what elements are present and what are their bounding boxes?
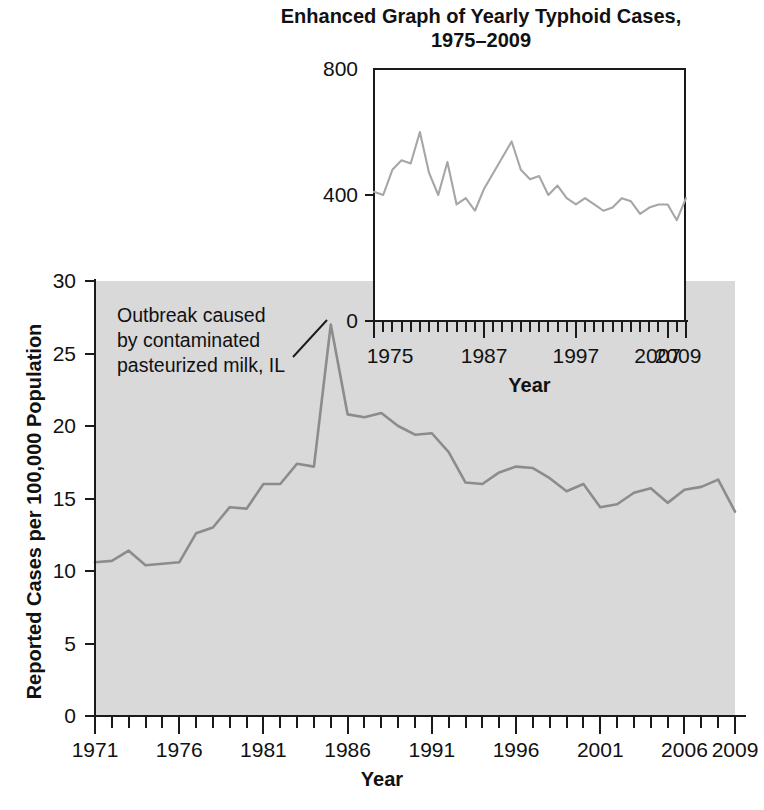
inset-x-tick-minor — [437, 322, 439, 332]
main-x-tick-minor — [532, 717, 534, 728]
inset-x-tick-label: 1997 — [553, 344, 600, 368]
inset-x-tick-minor — [382, 322, 384, 332]
inset-x-tick-minor — [465, 322, 467, 332]
inset-x-tick-minor — [446, 322, 448, 332]
inset-x-tick-minor — [648, 322, 650, 332]
main-x-tick-minor — [128, 717, 130, 728]
main-x-tick-minor — [380, 717, 382, 728]
inset-plot-background — [373, 68, 686, 322]
main-x-axis-title: Year — [0, 768, 764, 791]
inset-x-tick-minor — [566, 322, 568, 332]
outbreak-annotation: Outbreak caused by contaminated pasteuri… — [117, 303, 285, 378]
inset-x-tick-minor — [538, 322, 540, 332]
inset-x-tick-minor — [401, 322, 403, 332]
main-x-tick-minor — [465, 717, 467, 728]
main-y-axis-title: Reported Cases per 100,000 Population — [23, 282, 46, 742]
main-x-tick-minor — [498, 717, 500, 728]
main-y-tick — [85, 498, 96, 500]
main-x-tick-minor — [448, 717, 450, 728]
main-x-tick-minor — [397, 717, 399, 728]
main-x-tick-label: 1991 — [408, 738, 455, 762]
inset-x-tick-minor — [657, 322, 659, 332]
inset-y-tick-label: 400 — [304, 184, 358, 205]
inset-x-tick-label: 2009 — [655, 344, 702, 368]
main-x-tick-label: 1981 — [240, 738, 287, 762]
main-x-tick-minor — [145, 717, 147, 728]
main-x-axis — [94, 715, 746, 717]
inset-x-tick-major — [667, 322, 669, 338]
main-x-tick-minor — [229, 717, 231, 728]
main-x-tick-minor — [549, 717, 551, 728]
main-x-tick-minor — [313, 717, 315, 728]
main-y-tick — [85, 353, 96, 355]
main-x-tick-minor — [481, 717, 483, 728]
inset-x-tick-minor — [676, 322, 678, 332]
inset-y-tick — [365, 194, 375, 196]
main-x-tick-minor — [650, 717, 652, 728]
inset-x-tick-minor — [419, 322, 421, 332]
main-x-tick-label: 1986 — [324, 738, 371, 762]
inset-x-tick-label: 1975 — [367, 344, 414, 368]
main-x-tick-major — [431, 717, 433, 734]
inset-x-axis-title: Year — [373, 374, 686, 397]
inset-x-tick-major — [373, 322, 375, 338]
inset-x-tick-minor — [639, 322, 641, 332]
main-x-tick-label: 1976 — [156, 738, 203, 762]
main-x-tick-major — [515, 717, 517, 734]
main-x-tick-label: 2001 — [577, 738, 624, 762]
inset-x-tick-minor — [456, 322, 458, 332]
main-y-tick — [85, 570, 96, 572]
inset-x-tick-minor — [630, 322, 632, 332]
main-x-tick-major — [262, 717, 264, 734]
main-x-tick-major — [347, 717, 349, 734]
inset-x-tick-minor — [501, 322, 503, 332]
inset-x-tick-minor — [593, 322, 595, 332]
main-x-tick-major — [734, 717, 736, 734]
main-x-tick-minor — [296, 717, 298, 728]
inset-x-tick-label: 1987 — [461, 344, 508, 368]
main-x-tick-label: 2006 — [661, 738, 708, 762]
main-x-tick-minor — [363, 717, 365, 728]
main-x-tick-minor — [667, 717, 669, 728]
inset-y-tick-label: 0 — [304, 310, 358, 331]
inset-x-tick-minor — [621, 322, 623, 332]
main-x-tick-major — [94, 717, 96, 734]
main-x-tick-label: 1971 — [72, 738, 119, 762]
main-x-tick-label: 2009 — [712, 738, 759, 762]
main-x-tick-minor — [582, 717, 584, 728]
inset-x-tick-minor — [492, 322, 494, 332]
inset-x-tick-minor — [511, 322, 513, 332]
main-x-tick-minor — [212, 717, 214, 728]
main-y-tick — [85, 643, 96, 645]
main-x-tick-minor — [700, 717, 702, 728]
inset-x-tick-minor — [474, 322, 476, 332]
inset-x-tick-minor — [612, 322, 614, 332]
figure-root: 302520151050 197119761981198619911996200… — [0, 0, 764, 810]
inset-x-tick-major — [483, 322, 485, 338]
main-x-tick-minor — [111, 717, 113, 728]
inset-x-tick-minor — [547, 322, 549, 332]
main-x-tick-label: 1996 — [493, 738, 540, 762]
main-x-tick-major — [599, 717, 601, 734]
inset-x-tick-minor — [557, 322, 559, 332]
main-x-tick-minor — [717, 717, 719, 728]
main-x-tick-major — [178, 717, 180, 734]
inset-x-tick-minor — [520, 322, 522, 332]
main-x-tick-minor — [566, 717, 568, 728]
inset-x-tick-major — [575, 322, 577, 338]
main-y-tick — [85, 425, 96, 427]
main-x-tick-minor — [330, 717, 332, 728]
main-x-tick-minor — [246, 717, 248, 728]
main-y-tick — [85, 280, 96, 282]
inset-x-tick-major — [685, 322, 687, 338]
main-x-tick-minor — [195, 717, 197, 728]
inset-x-tick-minor — [529, 322, 531, 332]
inset-x-tick-minor — [391, 322, 393, 332]
inset-x-tick-minor — [602, 322, 604, 332]
inset-title: Enhanced Graph of Yearly Typhoid Cases, … — [228, 4, 734, 53]
main-x-tick-minor — [161, 717, 163, 728]
main-x-tick-minor — [279, 717, 281, 728]
main-x-tick-minor — [616, 717, 618, 728]
inset-x-tick-minor — [410, 322, 412, 332]
inset-x-tick-minor — [428, 322, 430, 332]
